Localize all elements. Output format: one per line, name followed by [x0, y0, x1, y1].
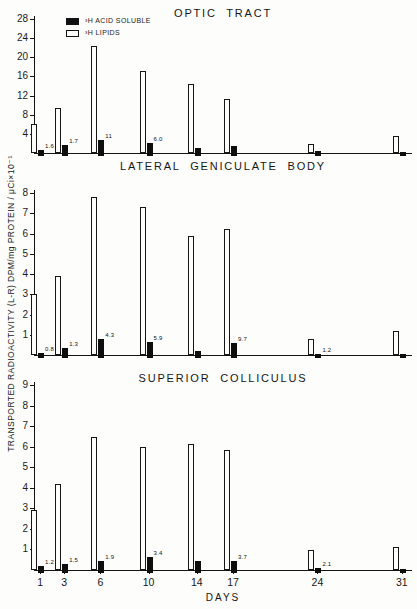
bar-lipids-day-14 [188, 444, 194, 570]
bar-lipids-day-17 [224, 450, 230, 570]
bar-lipids-day-31 [393, 331, 399, 355]
y-tick-label: 1 [6, 544, 28, 554]
y-tick-label: 4 [6, 129, 28, 139]
bar-lipids-day-14 [188, 236, 194, 355]
bar-acid-soluble-day-31 [400, 354, 406, 358]
x-tick-label: 14 [186, 576, 208, 588]
bar-value-label: 11 [105, 133, 112, 139]
y-tick [30, 447, 34, 448]
bar-value-label: 1.7 [69, 138, 78, 144]
y-tick-label: 1 [6, 330, 28, 340]
bar-acid-soluble-day-24 [315, 354, 321, 358]
y-tick [30, 467, 34, 468]
bar-acid-soluble-day-31 [400, 569, 406, 573]
bar-acid-soluble-day-3 [62, 564, 68, 573]
bar-lipids-day-3 [55, 108, 61, 153]
x-baseline [34, 570, 412, 571]
y-tick-label: 8 [6, 188, 28, 198]
bar-lipids-day-24 [308, 339, 314, 355]
y-tick [30, 38, 34, 39]
bar-value-label: 3.7 [238, 554, 247, 560]
bar-value-label: 9.7 [238, 336, 247, 342]
bar-lipids-day-3 [55, 484, 61, 570]
y-tick [30, 254, 34, 255]
bar-lipids-day-31 [393, 547, 399, 570]
bar-value-label: 2.1 [322, 561, 331, 567]
bar-lipids-day-6 [91, 437, 97, 570]
bar-acid-soluble-day-31 [400, 152, 406, 156]
bar-lipids-day-24 [308, 144, 314, 153]
bar-acid-soluble-day-24 [315, 151, 321, 156]
bar-lipids-day-17 [224, 229, 230, 355]
x-baseline [34, 153, 412, 154]
y-tick-label: 16 [6, 71, 28, 81]
bar-value-label: 1.2 [45, 559, 54, 565]
y-tick-label: 5 [6, 462, 28, 472]
y-tick [30, 115, 34, 116]
bar-lipids-day-10 [140, 447, 146, 570]
x-tick-label: 3 [53, 576, 75, 588]
y-tick-label: 2 [6, 310, 28, 320]
y-tick-label: 12 [6, 91, 28, 101]
x-tick [402, 571, 403, 574]
bar-lipids-day-10 [140, 71, 146, 153]
y-tick [30, 488, 34, 489]
bar-lipids-day-10 [140, 207, 146, 355]
x-tick [100, 571, 101, 574]
bar-value-label: 6.0 [154, 136, 163, 142]
bar-acid-soluble-day-10 [147, 557, 153, 573]
x-tick-label: 1 [29, 576, 51, 588]
legend-label: ³H LIPIDS [85, 29, 120, 36]
bar-lipids-day-24 [308, 550, 314, 570]
bar-value-label: 1.6 [45, 143, 54, 149]
bar-acid-soluble-day-17 [231, 146, 237, 156]
bar-lipids-day-1 [31, 124, 37, 153]
y-tick-label: 6 [6, 442, 28, 452]
y-tick [30, 274, 34, 275]
bar-lipids-day-3 [55, 276, 61, 355]
bar-acid-soluble-day-14 [195, 351, 201, 358]
filled-square-swatch-icon [66, 18, 79, 25]
bar-acid-soluble-day-14 [195, 148, 201, 156]
bar-lipids-day-31 [393, 136, 399, 153]
bar-lipids-day-1 [31, 510, 37, 570]
panel-title-superior-colliculus: SUPERIOR COLLICULUS [34, 372, 412, 384]
y-tick-label: 4 [6, 269, 28, 279]
y-tick-label: 9 [6, 380, 28, 390]
bar-acid-soluble-day-10 [147, 342, 153, 358]
y-tick [30, 234, 34, 235]
y-tick-label: 3 [6, 289, 28, 299]
y-tick-label: 28 [6, 14, 28, 24]
y-tick [30, 508, 34, 509]
y-tick-label: 6 [6, 229, 28, 239]
bar-lipids-day-6 [91, 197, 97, 355]
y-tick [30, 19, 34, 20]
y-tick-label: 24 [6, 33, 28, 43]
x-tick [317, 571, 318, 574]
x-tick [197, 571, 198, 574]
y-tick-label: 8 [6, 401, 28, 411]
y-tick [30, 406, 34, 407]
bar-value-label: 3.4 [154, 550, 163, 556]
figure-canvas: TRANSPORTED RADIOACTIVITY (L-R) DPM/mg P… [0, 0, 417, 609]
bar-acid-soluble-day-6 [98, 140, 104, 156]
y-tick [30, 96, 34, 97]
x-tick-label: 10 [138, 576, 160, 588]
x-tick-label: 6 [89, 576, 111, 588]
bar-lipids-day-1 [31, 294, 37, 355]
y-tick [30, 385, 34, 386]
y-tick [30, 193, 34, 194]
y-tick-label: 3 [6, 503, 28, 513]
y-axis-label: TRANSPORTED RADIOACTIVITY (L-R) DPM/mg P… [6, 24, 19, 584]
y-tick-label: 8 [6, 110, 28, 120]
bar-acid-soluble-day-1 [38, 150, 44, 156]
bar-acid-soluble-day-14 [195, 561, 201, 573]
bar-lipids-day-14 [188, 84, 194, 153]
bar-value-label: 1.3 [69, 341, 78, 347]
open-square-swatch-icon [66, 30, 79, 37]
bar-acid-soluble-day-6 [98, 561, 104, 573]
bar-lipids-day-17 [224, 99, 230, 153]
y-tick-label: 20 [6, 52, 28, 62]
bar-value-label: 1.5 [69, 557, 78, 563]
y-tick [30, 76, 34, 77]
